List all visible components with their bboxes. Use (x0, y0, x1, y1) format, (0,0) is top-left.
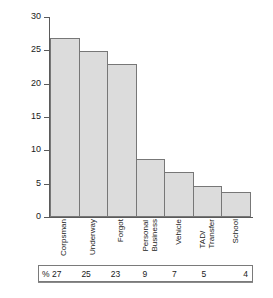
y-axis-tick (44, 84, 49, 85)
y-axis-tick (44, 17, 49, 18)
x-axis-tick-label: School (221, 219, 250, 267)
bar (136, 159, 166, 217)
bar (79, 51, 109, 217)
y-axis-tick-label: 25 (31, 44, 41, 54)
value-table-cell: 23 (101, 269, 130, 279)
x-axis-tick-labels: CorpsmanUnderwayForgotPersonalBusinessVe… (50, 219, 250, 267)
x-axis-tick-label: Corpsman (50, 219, 79, 267)
y-axis-tick-label: 0 (36, 211, 41, 221)
y-axis-tick (44, 117, 49, 118)
x-axis-line (49, 217, 253, 218)
table-bottom-rule (38, 282, 253, 283)
y-axis-tick (44, 217, 49, 218)
value-table-cell: 9 (130, 269, 159, 279)
y-axis-tick (44, 50, 49, 51)
x-axis-tick-label: Forgot (107, 219, 136, 267)
x-axis-tick-label: Vehicle (164, 219, 193, 267)
plot-area: 051015202530 (49, 17, 251, 217)
y-axis-tick (44, 184, 49, 185)
x-axis-tick-label: PersonalBusiness (136, 219, 165, 267)
y-axis-tick-label: 30 (31, 11, 41, 21)
value-table-cell: 5 (189, 269, 218, 279)
x-axis-tick-label: TAD/Transfer (193, 219, 222, 267)
value-table-cell: 7 (160, 269, 189, 279)
y-axis-tick (44, 150, 49, 151)
value-table-cell: 4 (219, 269, 252, 279)
bar (164, 172, 194, 217)
bar (221, 192, 251, 217)
bar (193, 186, 223, 217)
bar (50, 38, 80, 217)
y-axis-tick-label: 5 (36, 178, 41, 188)
bar (107, 64, 137, 217)
y-axis-tick-label: 10 (31, 144, 41, 154)
bar-series (50, 17, 250, 217)
y-axis-tick-label: 20 (31, 78, 41, 88)
value-table: % 2725239754 (38, 265, 253, 282)
value-table-cell: % 27 (39, 269, 71, 279)
value-table-cell: 25 (71, 269, 100, 279)
y-axis-tick-label: 15 (31, 111, 41, 121)
bar-chart-figure: % of failed appointments 051015202530 Co… (0, 0, 273, 298)
x-axis-tick-label: Underway (79, 219, 108, 267)
